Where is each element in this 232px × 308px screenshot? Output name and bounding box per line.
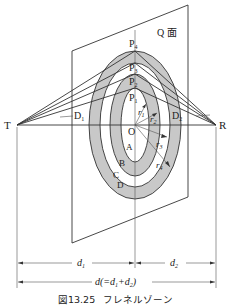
label-zone-a: A — [126, 142, 133, 152]
plane-label: Q 面 — [157, 27, 177, 38]
label-r: R — [219, 119, 227, 131]
dimension-d1 — [18, 262, 134, 265]
label-t: T — [4, 119, 11, 131]
label-dim-total: d(=d1+d2) — [95, 276, 137, 288]
figure-caption: 図13.25フレネルゾーン — [58, 294, 173, 305]
label-zone-c: C — [113, 170, 119, 180]
label-zone-b: B — [119, 158, 125, 168]
d1-leader — [60, 116, 73, 117]
label-dim-d2: d2 — [170, 257, 178, 269]
fresnel-zone-diagram: Q 面 T R O P4 P3 P2 P1 D1 D2 A B C D r1 r… — [0, 0, 232, 308]
label-zone-d: D — [117, 180, 124, 190]
label-dim-d1: d1 — [77, 257, 85, 269]
label-o: O — [128, 126, 135, 137]
